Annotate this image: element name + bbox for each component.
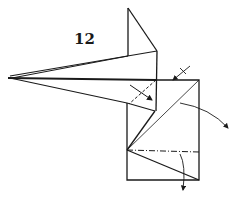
valley-fold-line — [129, 80, 156, 104]
fold-arrow-right-curved — [180, 103, 228, 128]
fold-arrow-flap — [130, 85, 152, 100]
model-outline — [8, 8, 199, 180]
origami-diagram — [0, 0, 230, 201]
mountain-fold-line — [127, 150, 199, 152]
push-arrow-corner — [173, 66, 190, 80]
